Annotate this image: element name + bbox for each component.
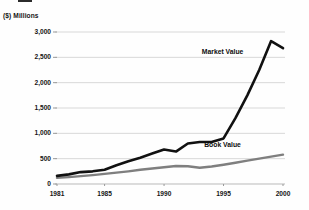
series-label-market-value: Market Value (202, 48, 244, 55)
series-line-market-value (57, 41, 283, 176)
y-axis-tick-label: 0 (23, 180, 51, 187)
y-axis-tick-label: 3,000 (23, 28, 51, 35)
x-axis-tick-label: 1990 (149, 190, 179, 197)
y-axis-tick-label: 500 (23, 155, 51, 162)
y-axis-tick-label: 1,500 (23, 104, 51, 111)
x-axis-tick-label: 1995 (209, 190, 239, 197)
x-axis-tick-label: 1981 (42, 190, 72, 197)
series-line-book-value (57, 155, 283, 178)
x-axis-tick-label: 1985 (90, 190, 120, 197)
plot-area: 3,0002,5002,0001,5001,000500019811985199… (0, 0, 309, 210)
chart-container: ($) Millions 3,0002,5002,0001,5001,00050… (0, 0, 309, 210)
y-axis-tick-label: 1,000 (23, 129, 51, 136)
y-axis-tick-label: 2,500 (23, 53, 51, 60)
y-axis-tick-label: 2,000 (23, 79, 51, 86)
x-axis-tick-label: 2000 (268, 190, 298, 197)
series-label-book-value: Book Value (204, 141, 241, 148)
